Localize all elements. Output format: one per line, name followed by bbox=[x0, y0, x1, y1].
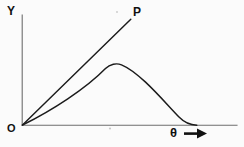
paper-speck bbox=[109, 127, 111, 129]
trajectory-diagram-canvas bbox=[0, 0, 244, 147]
point-p-label: P bbox=[133, 6, 141, 18]
y-axis-label: Y bbox=[7, 5, 15, 17]
direction-arrow-head bbox=[197, 129, 207, 139]
tangent-line-op bbox=[23, 19, 131, 125]
paper-speck bbox=[116, 11, 118, 13]
trajectory-figure: Y P O θ bbox=[0, 0, 244, 147]
trajectory-curve bbox=[23, 64, 197, 125]
origin-label: O bbox=[7, 123, 16, 134]
theta-angle-label: θ bbox=[170, 126, 177, 139]
